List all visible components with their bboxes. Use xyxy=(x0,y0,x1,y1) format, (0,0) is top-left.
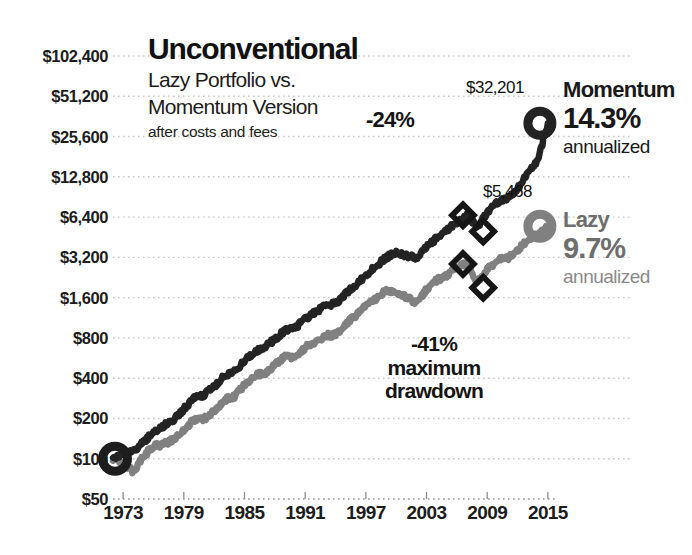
y-axis-tick-label: $25,600 xyxy=(51,129,108,146)
lazy-drawdown-annotation: -41% maximum drawdown xyxy=(385,332,483,403)
end-ring-marker-momentum xyxy=(528,111,552,135)
y-axis-tick-label: $12,800 xyxy=(51,169,108,186)
lazy-drawdown-line-3: drawdown xyxy=(385,379,483,403)
y-axis-tick-label: $100 xyxy=(73,451,108,468)
end-ring-marker-lazy xyxy=(528,214,552,238)
legend-lazy: Lazy 9.7% annualized xyxy=(563,208,650,288)
subtitle-line-1: Lazy Portfolio vs. xyxy=(148,68,448,93)
y-axis-tick-label: $3,200 xyxy=(60,249,108,266)
x-axis-tick-label: 2015 xyxy=(528,503,568,522)
legend-momentum-sub: annualized xyxy=(563,137,675,158)
y-axis-tick-label: $800 xyxy=(73,330,108,347)
x-axis-tick-label: 1979 xyxy=(164,503,204,522)
y-axis-tick-label: $400 xyxy=(73,370,108,387)
y-axis-tick-label: $102,400 xyxy=(42,48,108,65)
legend-momentum-pct: 14.3% xyxy=(563,103,675,134)
chart-figure: $50$100$200$400$800$1,600$3,200$6,400$12… xyxy=(0,0,692,555)
legend-lazy-sub: annualized xyxy=(563,267,650,288)
legend-momentum: Momentum 14.3% annualized xyxy=(563,78,675,158)
x-axis-tick-label: 2009 xyxy=(467,503,507,522)
x-axis-tick-label: 1997 xyxy=(346,503,386,522)
y-axis-tick-label: $200 xyxy=(73,410,108,427)
x-axis xyxy=(113,492,558,499)
momentum-end-value-label: $32,201 xyxy=(466,79,524,96)
y-axis-tick-label: $1,600 xyxy=(60,290,108,307)
x-axis-tick-label: 1973 xyxy=(103,503,143,522)
lazy-drawdown-line-2: maximum xyxy=(385,356,483,380)
lazy-end-value-label: $5,468 xyxy=(483,183,532,200)
x-axis-tick-label: 1985 xyxy=(225,503,265,522)
legend-momentum-name: Momentum xyxy=(563,78,675,101)
series-line-momentum xyxy=(113,123,548,459)
y-axis-tick-label: $51,200 xyxy=(51,88,108,105)
x-axis-tick-label: 1991 xyxy=(285,503,325,522)
lazy-drawdown-pct: -41% xyxy=(385,332,483,356)
legend-lazy-name: Lazy xyxy=(563,208,650,231)
legend-lazy-pct: 9.7% xyxy=(563,233,650,264)
momentum-drawdown-annotation: -24% xyxy=(366,108,414,133)
chart-markers xyxy=(103,111,552,471)
page-title: Unconventional xyxy=(148,34,448,65)
x-axis-tick-label: 2003 xyxy=(407,503,447,522)
y-axis-tick-label: $6,400 xyxy=(60,209,108,226)
